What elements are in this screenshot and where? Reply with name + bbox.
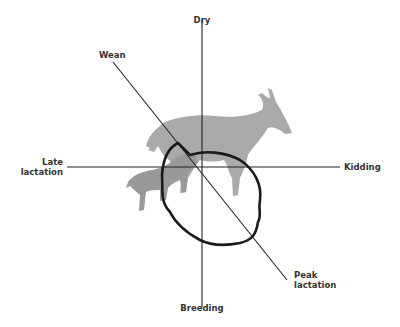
- label-peak-lactation-line2: lactation: [294, 280, 336, 290]
- label-wean: Wean: [99, 50, 126, 60]
- label-breeding: Breeding: [176, 303, 228, 313]
- label-late-lactation-line2: lactation: [20, 167, 63, 177]
- label-peak-lactation-line1: Peak: [294, 270, 317, 280]
- label-late-lactation-line1: Late: [20, 157, 63, 167]
- label-kidding: Kidding: [344, 162, 381, 172]
- label-dry: Dry: [190, 15, 214, 25]
